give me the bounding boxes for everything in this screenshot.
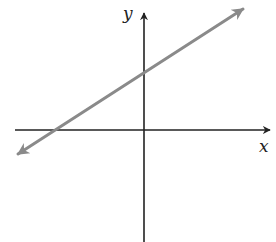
x-axis-label: x	[259, 138, 269, 155]
graph-line	[18, 9, 243, 154]
coordinate-plane	[0, 0, 276, 242]
y-axis-label: y	[123, 5, 133, 22]
